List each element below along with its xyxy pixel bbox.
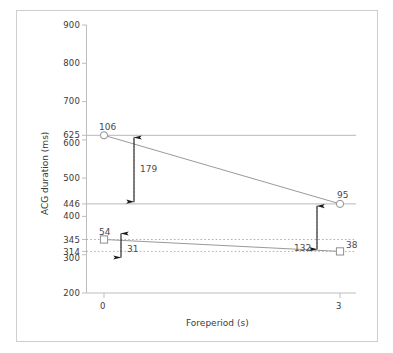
y-tick-label-400: 400 <box>58 212 80 221</box>
x-tick-label-0: 0 <box>100 302 106 311</box>
y-tick-label-800: 800 <box>58 59 80 68</box>
diff-label-132: 132 <box>294 243 311 253</box>
y-tick-label-700: 700 <box>58 97 80 106</box>
point-label-54: 54 <box>99 227 110 237</box>
y-tick-marks <box>82 25 87 293</box>
y-tick-label-500: 500 <box>58 174 80 183</box>
y-tick-label-300: 300 <box>58 254 80 263</box>
point-label-106: 106 <box>99 122 116 132</box>
x-tick-marks <box>104 293 340 298</box>
x-tick-label-3: 3 <box>336 302 342 311</box>
x-axis-title: Foreperiod (s) <box>186 318 249 328</box>
data-point-circle-0[interactable] <box>100 132 107 139</box>
y-tick-label-900: 900 <box>58 21 80 30</box>
point-label-95: 95 <box>337 190 348 200</box>
y-tick-label-600: 600 <box>58 139 80 148</box>
y-tick-label-200: 200 <box>58 289 80 298</box>
y-tick-label-345: 345 <box>58 236 80 245</box>
diff-label-179: 179 <box>140 164 157 174</box>
y-axis-title: ACG duration (ms) <box>40 132 50 215</box>
y-tick-label-446: 446 <box>58 200 80 209</box>
point-label-38: 38 <box>346 240 357 250</box>
data-point-square-3[interactable] <box>336 248 343 255</box>
diff-label-31: 31 <box>127 244 138 254</box>
data-point-circle-3[interactable] <box>336 200 343 207</box>
